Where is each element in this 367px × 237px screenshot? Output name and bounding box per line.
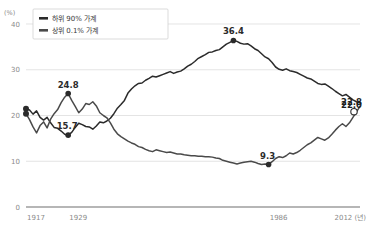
x-tick-label-1917: 1917 <box>27 214 45 222</box>
y-tick-label-30: 30 <box>11 66 20 74</box>
legend-background <box>33 9 168 39</box>
y-tick-label-0: 0 <box>16 204 20 212</box>
label-9-3: 9.3 <box>260 151 275 161</box>
legend-label-1: 상위 0.1% 가계 <box>52 26 98 35</box>
chart-container: 403020100 (%) 1917192919862012 (년) 24.81… <box>0 0 367 237</box>
legend-swatch-icon-1 <box>39 29 48 32</box>
x-tick-label-1929: 1929 <box>69 214 87 222</box>
label-15-7-marker <box>65 132 71 138</box>
gridlines <box>26 24 360 161</box>
y-tick-label-40: 40 <box>11 21 20 29</box>
x-tick-label-2012: 2012 (년) <box>334 213 366 222</box>
x-axis-tick-labels: 1917192919862012 (년) <box>27 213 366 222</box>
label-24-8: 24.8 <box>58 80 79 90</box>
y-tick-label-20: 20 <box>11 112 20 120</box>
y-tick-label-10: 10 <box>11 158 20 166</box>
data-labels: 24.815.736.49.322.822.0 <box>57 26 362 161</box>
wealth-share-line-chart: 403020100 (%) 1917192919862012 (년) 24.81… <box>0 0 367 237</box>
start-marker-bottom <box>23 111 29 117</box>
label-15-7: 15.7 <box>57 121 78 131</box>
label-36-4-marker <box>231 38 237 44</box>
legend-swatch-icon-0 <box>39 17 48 20</box>
chart-legend[interactable]: 하위 90% 가계 상위 0.1% 가계 <box>33 9 168 39</box>
label-9-3-marker <box>266 162 272 168</box>
label-24-8-marker <box>65 91 71 97</box>
y-axis-tick-labels: 403020100 <box>11 21 20 212</box>
label-22-0: 22.0 <box>341 100 362 110</box>
legend-label-0: 하위 90% 가계 <box>52 14 96 23</box>
label-36-4: 36.4 <box>223 26 244 36</box>
x-tick-label-1986: 1986 <box>270 214 288 222</box>
y-axis-unit-label: (%) <box>4 9 15 17</box>
series-lines <box>26 40 360 164</box>
